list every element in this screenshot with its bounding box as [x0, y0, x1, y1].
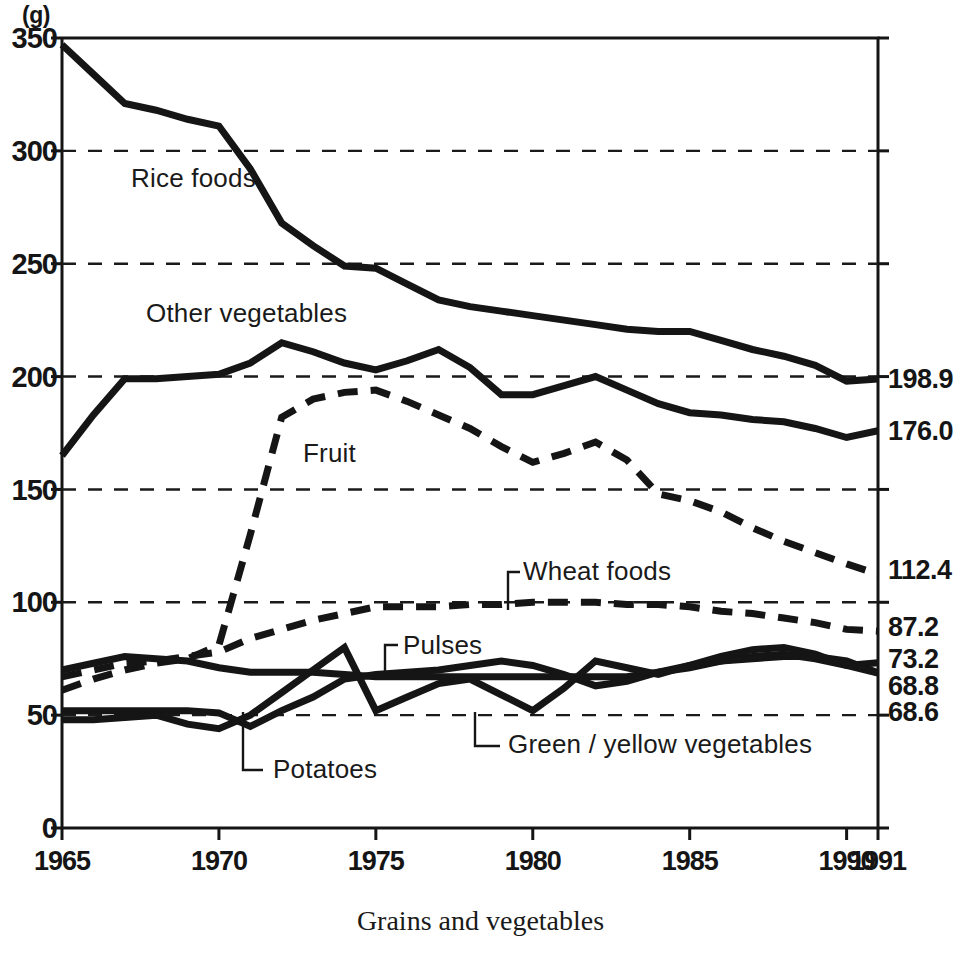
series-line-rice-foods	[62, 45, 878, 381]
series-label-other-vegetables: Other vegetables	[146, 298, 347, 329]
series-label-green-yellow-vegetables: Green / yellow vegetables	[508, 729, 812, 760]
series-label-rice-foods: Rice foods	[131, 163, 256, 194]
chart-figure: (g) 350 300 250 200 150 100 50 0 Rice fo…	[0, 0, 961, 956]
series-line-other-vegetables	[62, 343, 878, 456]
series-label-pulses: Pulses	[403, 630, 482, 661]
x-tick-label-1991: 1991	[850, 846, 906, 877]
plot-canvas	[0, 0, 961, 956]
x-tick-label-1985: 1985	[662, 846, 718, 877]
series-line-potatoes	[62, 656, 878, 726]
end-label-rice-foods: 198.9	[888, 364, 953, 395]
end-label-wheat-foods: 87.2	[888, 612, 939, 643]
end-label-other-vegetables: 176.0	[888, 416, 953, 447]
end-label-fruit: 112.4	[888, 555, 952, 586]
series-label-wheat-foods: Wheat foods	[523, 556, 671, 587]
figure-caption: Grains and vegetables	[0, 905, 961, 937]
series-lines	[62, 45, 878, 729]
x-tick-label-1965: 1965	[34, 846, 90, 877]
leader-line-green-yellow-vegetables	[475, 712, 500, 746]
x-tick-label-1970: 1970	[191, 846, 247, 877]
series-label-fruit: Fruit	[303, 438, 356, 469]
x-tick-label-1975: 1975	[348, 846, 404, 877]
end-label-green-yellow-vegetables: 68.6	[888, 697, 939, 728]
x-axis-tick-marks	[62, 828, 878, 840]
x-tick-label-1980: 1980	[505, 846, 561, 877]
series-label-potatoes: Potatoes	[273, 754, 377, 785]
leader-line-pulses	[385, 645, 398, 672]
